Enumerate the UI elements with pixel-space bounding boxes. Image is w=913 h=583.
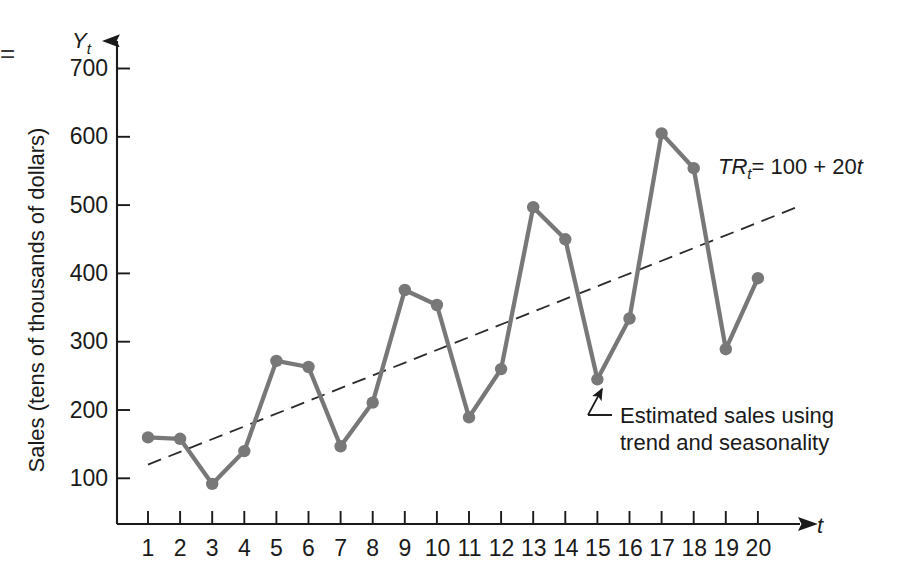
x-axis-ticks xyxy=(148,511,758,524)
x-tick-label-9: 9 xyxy=(398,535,411,561)
y-axis-symbol: Yt xyxy=(72,28,92,57)
x-tick-label-14: 14 xyxy=(553,535,579,561)
x-axis: 1 2 3 4 5 6 7 8 9 10 11 12 13 14 15 16 1… xyxy=(117,511,824,561)
edge-equals-glyph: = xyxy=(0,38,15,68)
x-tick-label-17: 17 xyxy=(649,535,675,561)
x-tick-label-10: 10 xyxy=(425,535,451,561)
y-tick-label-600: 600 xyxy=(70,123,108,149)
annotation-line-1: Estimated sales using xyxy=(620,403,834,428)
chart-canvas: 700 600 500 400 300 200 100 Yt Sales (te… xyxy=(0,0,913,583)
annotation-leader xyxy=(588,389,612,415)
data-point-5 xyxy=(270,355,282,367)
data-point-3 xyxy=(206,478,218,490)
data-point-7 xyxy=(334,440,346,452)
x-tick-label-20: 20 xyxy=(746,535,772,561)
x-tick-label-8: 8 xyxy=(366,535,379,561)
data-point-4 xyxy=(238,445,250,457)
data-point-1 xyxy=(142,431,154,443)
y-tick-label-100: 100 xyxy=(70,465,108,491)
y-axis-ticks xyxy=(117,69,130,479)
y-tick-label-700: 700 xyxy=(70,55,108,81)
y-tick-label-500: 500 xyxy=(70,192,108,218)
y-axis-title: Sales (tens of thousands of dollars) xyxy=(24,128,49,473)
x-tick-label-11: 11 xyxy=(458,535,482,561)
data-point-14 xyxy=(559,233,571,245)
data-point-17 xyxy=(655,127,667,139)
x-tick-label-18: 18 xyxy=(681,535,707,561)
y-axis: 700 600 500 400 300 200 100 Yt xyxy=(70,28,130,524)
x-tick-label-13: 13 xyxy=(521,535,547,561)
y-tick-label-300: 300 xyxy=(70,328,108,354)
y-tick-label-400: 400 xyxy=(70,260,108,286)
data-point-15 xyxy=(591,373,603,385)
x-tick-label-16: 16 xyxy=(617,535,643,561)
annotation-line-2: trend and seasonality xyxy=(620,430,829,455)
data-point-12 xyxy=(495,363,507,375)
x-tick-label-6: 6 xyxy=(302,535,315,561)
data-point-20 xyxy=(752,272,764,284)
x-tick-label-1: 1 xyxy=(142,535,155,561)
y-tick-label-200: 200 xyxy=(70,397,108,423)
x-axis-symbol: t xyxy=(817,513,824,538)
data-point-9 xyxy=(399,284,411,296)
x-tick-label-7: 7 xyxy=(334,535,347,561)
data-point-2 xyxy=(174,433,186,445)
trend-equation-label: TRt= 100 + 20t xyxy=(718,154,864,182)
data-point-19 xyxy=(720,343,732,355)
x-tick-label-2: 2 xyxy=(174,535,187,561)
x-tick-label-3: 3 xyxy=(206,535,219,561)
x-tick-label-5: 5 xyxy=(270,535,283,561)
chart-figure: 700 600 500 400 300 200 100 Yt Sales (te… xyxy=(0,0,913,583)
data-point-13 xyxy=(527,201,539,213)
data-point-18 xyxy=(688,162,700,174)
data-point-6 xyxy=(302,361,314,373)
x-tick-label-12: 12 xyxy=(489,535,515,561)
data-point-16 xyxy=(623,312,635,324)
x-tick-label-19: 19 xyxy=(714,535,740,561)
data-point-8 xyxy=(367,396,379,408)
x-tick-label-15: 15 xyxy=(585,535,611,561)
x-tick-label-4: 4 xyxy=(238,535,251,561)
data-point-10 xyxy=(431,299,443,311)
data-point-11 xyxy=(463,411,475,423)
